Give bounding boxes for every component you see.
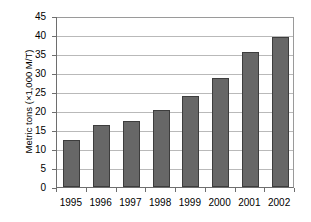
y-tick-label: 45 [0, 12, 46, 22]
bars-layer [57, 17, 293, 187]
plot-area [56, 17, 294, 188]
y-tick-mark [52, 150, 56, 151]
y-tick-mark [52, 36, 56, 37]
y-tick-mark [52, 17, 56, 18]
y-tick-label: 15 [0, 126, 46, 136]
bar-2000 [212, 78, 229, 187]
y-tick-mark [52, 74, 56, 75]
y-tick-label: 5 [0, 164, 46, 174]
x-tick-mark [86, 188, 87, 192]
y-tick-mark [52, 93, 56, 94]
x-tick-mark [56, 188, 57, 192]
x-tick-mark [116, 188, 117, 192]
x-tick-mark [294, 188, 295, 192]
y-tick-label: 25 [0, 88, 46, 98]
y-tick-label: 0 [0, 183, 46, 193]
x-tick-mark [205, 188, 206, 192]
y-tick-label: 40 [0, 31, 46, 41]
y-tick-label: 30 [0, 69, 46, 79]
bar-1996 [93, 125, 110, 187]
y-tick-label: 35 [0, 50, 46, 60]
x-tick-mark [175, 188, 176, 192]
bar-1999 [182, 96, 199, 187]
bar-1998 [153, 110, 170, 187]
y-tick-mark [52, 112, 56, 113]
y-tick-label: 20 [0, 107, 46, 117]
x-tick-mark [145, 188, 146, 192]
x-tick-mark [235, 188, 236, 192]
y-tick-mark [52, 55, 56, 56]
y-tick-mark [52, 131, 56, 132]
bar-1995 [63, 140, 80, 187]
y-axis-title: Metric tons (×1,000 M/T) [23, 22, 34, 182]
bar-1997 [123, 121, 140, 187]
x-tick-mark [264, 188, 265, 192]
x-tick-label: 2002 [259, 198, 299, 208]
bar-chart: Metric tons (×1,000 M/T) 051015202530354… [0, 0, 311, 222]
y-tick-label: 10 [0, 145, 46, 155]
bar-2001 [242, 52, 259, 187]
bar-2002 [272, 37, 289, 187]
y-tick-mark [52, 169, 56, 170]
